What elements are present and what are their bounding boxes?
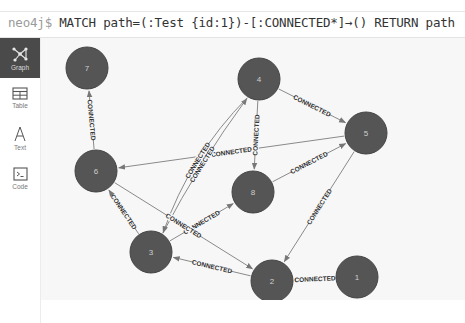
node-caption: 6	[94, 167, 99, 176]
graph-node-1[interactable]: 1	[336, 256, 378, 298]
relationship-type-label: CONNECTED	[109, 193, 138, 231]
query-text: MATCH path=(:Test {id:1})-[:CONNECTED*]→…	[59, 15, 455, 30]
divider	[0, 11, 465, 12]
relationship-type-label: CONNECTED	[294, 274, 336, 283]
node-caption: 4	[257, 75, 262, 84]
graph-node-5[interactable]: 5	[345, 112, 387, 154]
result-view-sidebar: Graph Table Text Code	[0, 38, 41, 323]
relationships-layer: CONNECTEDCONNECTEDCONNECTEDCONNECTEDCONN…	[86, 89, 354, 283]
relationship-type-label: CONNECTED	[211, 145, 253, 158]
node-caption: 7	[85, 64, 90, 73]
nodes-layer: 12345678	[66, 47, 387, 300]
query-editor[interactable]: neo4j$ MATCH path=(:Test {id:1})-[:CONNE…	[8, 15, 455, 30]
relationship-type-label: CONNECTED	[292, 93, 332, 118]
prompt: neo4j$	[8, 15, 52, 30]
graph-node-3[interactable]: 3	[130, 231, 172, 273]
graph-visualization[interactable]: CONNECTEDCONNECTEDCONNECTEDCONNECTEDCONN…	[41, 38, 465, 300]
table-icon	[12, 87, 28, 100]
view-tab-label: Text	[14, 144, 26, 151]
relationship-type-label: CONNECTED	[251, 114, 260, 156]
node-caption: 3	[149, 248, 154, 257]
graph-node-6[interactable]: 6	[75, 150, 117, 192]
node-caption: 5	[364, 129, 369, 138]
graph-node-8[interactable]: 8	[232, 171, 274, 213]
view-tab-table[interactable]: Table	[0, 78, 40, 118]
code-icon	[13, 167, 28, 181]
text-icon	[13, 126, 27, 142]
view-tab-code[interactable]: Code	[0, 158, 40, 198]
view-tab-label: Table	[12, 102, 28, 109]
relationship-type-label: CONNECTED	[289, 150, 329, 175]
view-tab-label: Code	[12, 183, 28, 190]
graph-node-7[interactable]: 7	[66, 47, 108, 89]
graph-node-4[interactable]: 4	[238, 58, 280, 100]
view-tab-graph[interactable]: Graph	[0, 38, 40, 78]
command-bar: neo4j$ MATCH path=(:Test {id:1})-[:CONNE…	[0, 0, 465, 38]
node-caption: 1	[355, 273, 360, 282]
result-footer	[41, 300, 465, 323]
relationship-type-label: CONNECTED	[191, 258, 233, 274]
view-tab-text[interactable]: Text	[0, 118, 40, 158]
relationship-type-label: CONNECTED	[305, 187, 333, 226]
graph-canvas[interactable]: CONNECTEDCONNECTEDCONNECTEDCONNECTEDCONN…	[41, 38, 465, 300]
node-caption: 2	[270, 277, 275, 286]
graph-node-2[interactable]: 2	[251, 260, 293, 300]
graph-icon	[11, 46, 29, 62]
node-caption: 8	[251, 188, 256, 197]
view-tab-label: Graph	[11, 64, 29, 71]
